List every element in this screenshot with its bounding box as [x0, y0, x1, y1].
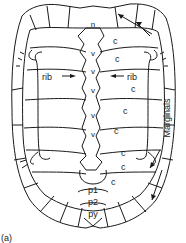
- label-p1: p1: [88, 185, 98, 195]
- label-costal: c: [111, 177, 116, 187]
- panel-label: (a): [1, 233, 12, 243]
- label-p2: p2: [88, 197, 98, 207]
- label-costal: c: [121, 162, 126, 172]
- label-vertebra: v: [91, 49, 95, 58]
- label-rib-left: rib: [42, 72, 52, 82]
- label-rib-right: rib: [127, 72, 137, 82]
- label-vertebra: v: [91, 130, 95, 139]
- label-vertebra: v: [91, 67, 95, 76]
- rib-left: [35, 52, 50, 159]
- label-costal: c: [123, 106, 128, 116]
- label-marginals: Marginals: [162, 98, 172, 138]
- label-vertebra: v: [91, 111, 95, 120]
- label-costal: c: [114, 126, 119, 136]
- carapace-diagram: n rib rib v v v v v c c c c c c c c p1 p…: [0, 0, 186, 243]
- label-nuchal: n: [91, 20, 95, 29]
- rib-right: [136, 52, 151, 159]
- label-costal: c: [121, 148, 126, 158]
- label-pygal: py: [88, 209, 98, 219]
- label-costal: c: [115, 54, 120, 64]
- label-costal: c: [131, 84, 136, 94]
- label-vertebra: v: [91, 86, 95, 95]
- label-costal: c: [113, 36, 118, 46]
